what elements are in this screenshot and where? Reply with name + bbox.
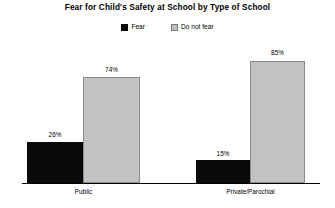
bar-value-public-do-not-fear: 74% xyxy=(83,67,140,73)
bar-public-fear xyxy=(27,142,83,183)
bar-value-public-fear: 26% xyxy=(27,132,83,138)
x-axis-label-public: Public xyxy=(27,188,140,195)
bar-public-do-not-fear xyxy=(83,77,140,183)
bar-value-private-do-not-fear: 85% xyxy=(250,50,305,56)
bar-private-do-not-fear xyxy=(250,61,305,183)
plot-area: 26% 74% 15% 85% Public Private/Parochial xyxy=(0,0,335,208)
bar-value-private-fear: 15% xyxy=(196,151,250,157)
bar-private-fear xyxy=(196,160,250,183)
x-axis-label-private-parochial: Private/Parochial xyxy=(196,188,305,195)
x-axis-line xyxy=(22,183,320,184)
chart-container: Fear for Child's Safety at School by Typ… xyxy=(0,0,335,208)
